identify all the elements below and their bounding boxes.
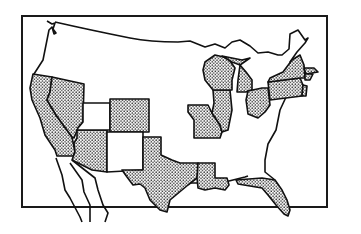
state-louisiana	[197, 163, 229, 190]
state-connecticut	[305, 74, 313, 80]
state-florida	[236, 178, 290, 216]
state-ohio	[246, 88, 270, 118]
state-michigan-lower	[237, 65, 252, 92]
us-map	[0, 0, 361, 234]
state-new-mexico	[107, 132, 143, 172]
state-colorado	[110, 99, 149, 132]
state-massachusetts	[304, 68, 318, 74]
state-new-jersey	[302, 85, 307, 96]
state-new-york	[268, 55, 305, 82]
state-arizona	[72, 130, 107, 172]
